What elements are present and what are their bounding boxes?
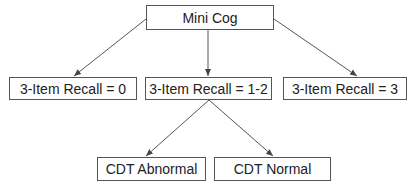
node-cdt-abnormal: CDT Abnormal [97, 157, 206, 181]
node-cdt-normal: CDT Normal [214, 157, 331, 181]
edge-recall-1-2-to-cdt-normal [209, 100, 273, 156]
edge-root-to-recall-0 [74, 19, 146, 76]
node-mini-cog: Mini Cog [146, 5, 274, 30]
edge-recall-1-2-to-cdt-abnormal [146, 100, 209, 156]
node-recall-3: 3-Item Recall = 3 [283, 77, 407, 100]
node-recall-1-2: 3-Item Recall = 1-2 [145, 77, 272, 100]
node-recall-0: 3-Item Recall = 0 [9, 77, 137, 100]
edge-root-to-recall-3 [274, 19, 357, 76]
